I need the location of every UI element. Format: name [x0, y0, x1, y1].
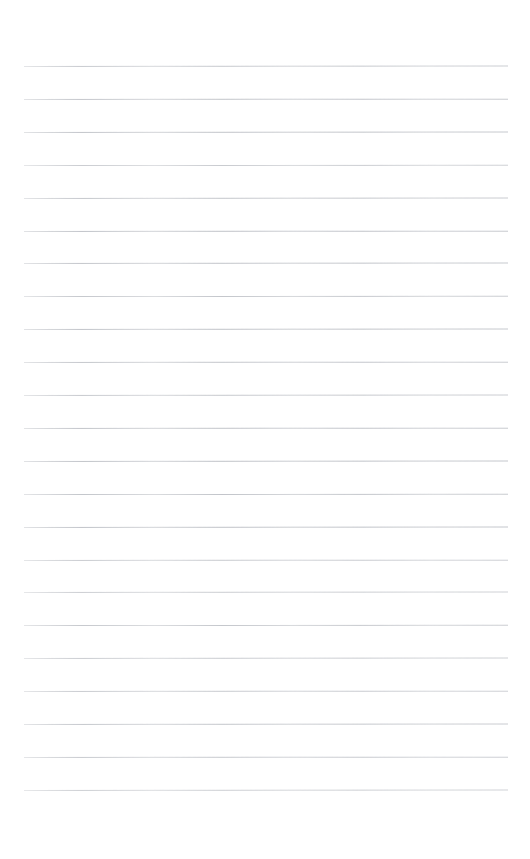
- lined-paper-page: [0, 0, 530, 859]
- writing-surface[interactable]: [24, 60, 508, 795]
- top-blank-margin: [0, 0, 530, 62]
- bottom-blank-margin: [0, 793, 530, 859]
